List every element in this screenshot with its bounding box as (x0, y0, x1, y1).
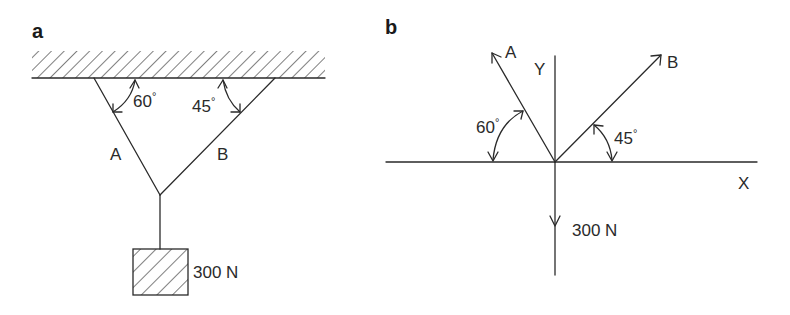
vector-weight-label: 300 N (572, 221, 617, 240)
angle-label-45-b: 45° (614, 127, 637, 148)
y-axis-label: Y (534, 60, 545, 79)
rope-a-label: A (110, 145, 122, 164)
angle-label-45-a: 45° (192, 95, 215, 116)
force-diagram: a 60° 45° A B (0, 0, 790, 315)
panel-a: a 60° 45° A B (32, 20, 325, 295)
panel-a-label: a (32, 20, 44, 42)
vector-b (555, 55, 661, 162)
vector-weight (550, 162, 560, 275)
vector-a (492, 53, 555, 162)
vector-a-label: A (505, 43, 517, 62)
angle-label-60-b: 60° (476, 116, 499, 137)
angle-arc-45-a (218, 80, 240, 112)
weight-label: 300 N (193, 263, 238, 282)
weight-block (133, 249, 188, 295)
vector-b-label: B (667, 53, 678, 72)
rope-b-label: B (217, 145, 228, 164)
ceiling (32, 51, 325, 78)
panel-b: b X Y A B 300 N 60° (385, 16, 757, 275)
x-axis-label: X (738, 174, 749, 193)
panel-b-label: b (385, 16, 397, 38)
angle-label-60-a: 60° (133, 90, 156, 111)
rope-b (160, 78, 275, 195)
